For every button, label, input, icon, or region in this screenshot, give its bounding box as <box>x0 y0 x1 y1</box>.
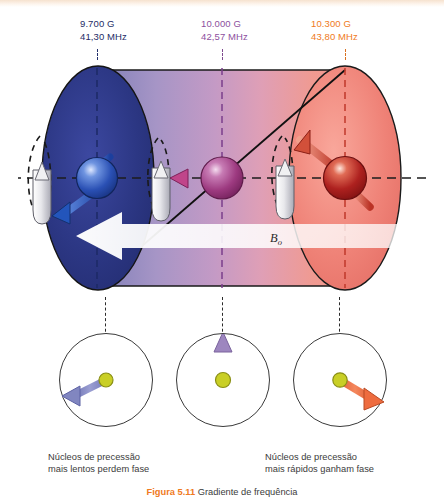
caption-left-line2: mais lentos perdem fase <box>48 464 149 474</box>
tick-mark-mid <box>222 49 223 60</box>
field-strength-low: 9.700 G <box>80 18 115 29</box>
caption-right-line2: mais rápidos ganham fase <box>265 464 374 474</box>
field-strength-high: 10.300 G <box>311 18 351 29</box>
frequency-low: 41,30 MHz <box>80 31 127 44</box>
phase-circle-left <box>59 333 153 427</box>
caption-left: Núcleos de precessão mais lentos perdem … <box>48 451 149 476</box>
stem-line-mid <box>222 297 223 337</box>
figure-canvas: 9.700 G 41,30 MHz 10.000 G 42,57 MHz 10.… <box>0 0 444 497</box>
phase-vector-left-svg <box>60 334 152 426</box>
phase-circle-right <box>293 333 387 427</box>
phase-circle-mid <box>176 333 270 427</box>
top-edge-tint <box>0 0 444 7</box>
phase-origin-dot-left <box>99 373 113 387</box>
field-label-high: 10.300 G 43,80 MHz <box>311 18 358 43</box>
cylinder-svg: Bo <box>18 62 428 294</box>
frequency-high: 43,80 MHz <box>311 31 358 44</box>
field-strength-mid: 10.000 G <box>201 18 241 29</box>
field-label-mid: 10.000 G 42,57 MHz <box>201 18 248 43</box>
gradient-cylinder: Bo <box>18 62 428 294</box>
figure-number: Figura 5.11 <box>147 487 196 497</box>
stem-line-right <box>339 297 340 337</box>
frequency-mid: 42,57 MHz <box>201 31 248 44</box>
phase-vector-right-svg <box>294 334 386 426</box>
stem-line-left <box>105 297 106 337</box>
figure-title: Gradiente de frequência <box>198 487 298 497</box>
tick-mark-low <box>97 49 98 60</box>
caption-right: Núcleos de precessão mais rápidos ganham… <box>265 451 374 476</box>
phase-vector-mid-svg <box>177 334 269 426</box>
tick-mark-high <box>345 49 346 60</box>
b0-label-sub: o <box>278 237 282 247</box>
caption-left-line1: Núcleos de precessão <box>48 452 140 462</box>
phase-origin-dot-mid <box>216 373 231 388</box>
caption-right-line1: Núcleos de precessão <box>265 452 357 462</box>
field-label-low: 9.700 G 41,30 MHz <box>80 18 127 43</box>
phase-origin-dot-right <box>333 373 347 387</box>
figure-caption: Figura 5.11 Gradiente de frequência <box>0 487 444 497</box>
